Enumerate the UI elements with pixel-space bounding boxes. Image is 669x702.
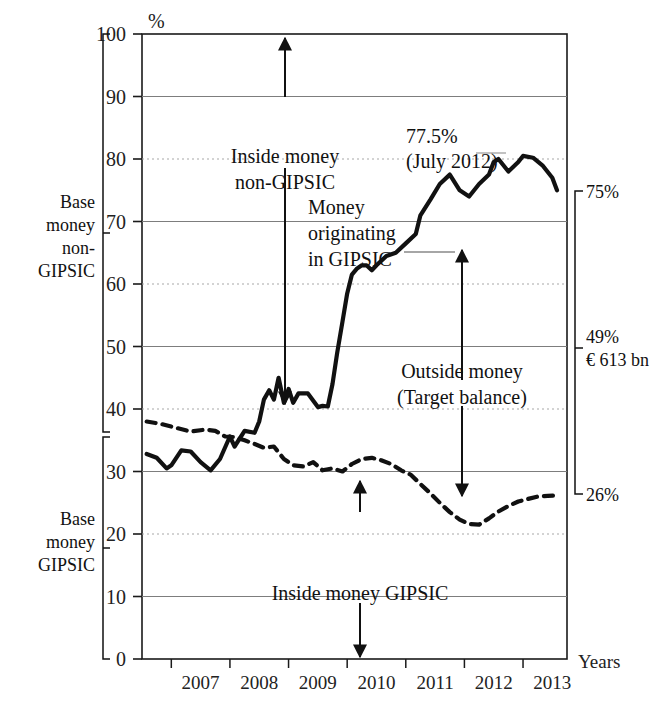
x-axis-tick-labels: 2007200820092010201120122013 <box>182 672 572 693</box>
callout-75-label: 75% <box>586 182 619 202</box>
y-tick-label-90: 90 <box>106 86 126 108</box>
x-axis-ticks <box>171 659 523 668</box>
x-axis-title: Years <box>578 651 620 672</box>
bracket-top-line4: GIPSIC <box>38 261 95 281</box>
x-tick-label-2013: 2013 <box>533 672 571 693</box>
x-tick-label-2009: 2009 <box>299 672 337 693</box>
inside-money-non-gipsic-line2: non-GIPSIC <box>235 171 335 193</box>
chart-figure: 0102030405060708090100 20072008200920102… <box>0 0 669 702</box>
y-tick-label-30: 30 <box>106 461 126 483</box>
outside-money-line1: Outside money <box>401 360 523 383</box>
outside-money-line2: (Target balance) <box>397 386 527 409</box>
y-axis-tick-labels: 0102030405060708090100 <box>96 23 126 670</box>
bracket-top-line2: money <box>46 215 95 235</box>
y-axis-ticks <box>133 34 142 659</box>
peak-value-label: 77.5% <box>406 125 458 147</box>
money-originating-line3: in GIPSIC <box>308 248 392 270</box>
bracket-bottom-line2: money <box>46 532 95 552</box>
y-tick-label-100: 100 <box>96 23 126 45</box>
left-brackets: Base money non- GIPSIC Base money GIPSIC <box>38 34 110 659</box>
y-tick-label-40: 40 <box>106 398 126 420</box>
callout-49-sublabel: € 613 bn <box>586 350 649 370</box>
inside-money-non-gipsic-line1: Inside money <box>231 145 339 168</box>
callout-26-label: 26% <box>586 485 619 505</box>
x-tick-label-2007: 2007 <box>182 672 220 693</box>
y-tick-label-20: 20 <box>106 523 126 545</box>
y-axis-unit-label: % <box>148 10 165 32</box>
y-tick-label-0: 0 <box>116 648 126 670</box>
bracket-bottom-line1: Base <box>60 509 95 529</box>
right-callout-bracket: 75% 49% € 613 bn 26% <box>575 182 649 505</box>
money-originating-line1: Money <box>308 196 365 219</box>
x-tick-label-2010: 2010 <box>357 672 395 693</box>
y-tick-label-70: 70 <box>106 211 126 233</box>
bracket-bottom-line3: GIPSIC <box>38 555 95 575</box>
x-tick-label-2012: 2012 <box>475 672 513 693</box>
chart-svg: 0102030405060708090100 20072008200920102… <box>0 0 669 702</box>
x-tick-label-2011: 2011 <box>416 672 453 693</box>
y-tick-label-80: 80 <box>106 148 126 170</box>
bracket-top-line1: Base <box>60 192 95 212</box>
right-bracket <box>575 191 583 494</box>
callout-49-label: 49% <box>586 327 619 347</box>
x-tick-label-2008: 2008 <box>240 672 278 693</box>
y-tick-label-10: 10 <box>106 586 126 608</box>
inside-money-gipsic-label: Inside money GIPSIC <box>272 582 449 605</box>
bracket-top-line3: non- <box>62 238 95 258</box>
money-originating-line2: originating <box>308 222 396 245</box>
peak-date-label: (July 2012) <box>406 150 498 173</box>
y-tick-label-50: 50 <box>106 336 126 358</box>
y-tick-label-60: 60 <box>106 273 126 295</box>
